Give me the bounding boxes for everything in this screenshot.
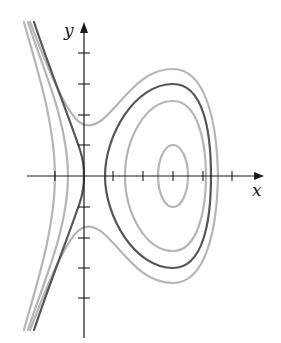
y-axis-label: y — [63, 20, 74, 40]
axes: x y — [27, 20, 264, 338]
y-axis-arrow-icon — [80, 22, 88, 33]
phase-portrait-diagram: x y — [0, 0, 281, 343]
x-axis-arrow-icon — [254, 172, 264, 180]
x-axis-label: x — [252, 180, 262, 200]
outer-open-orbit-upper — [30, 22, 218, 176]
outer-open-orbit-lower — [30, 176, 218, 330]
